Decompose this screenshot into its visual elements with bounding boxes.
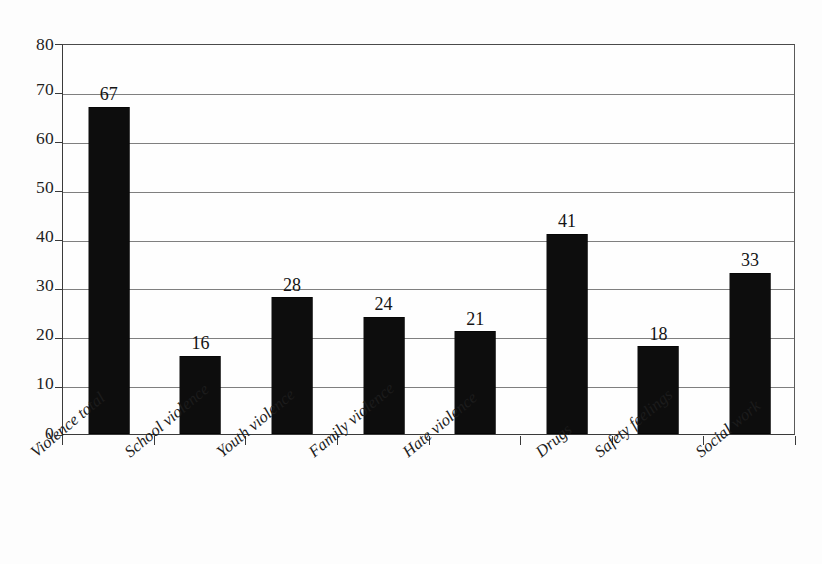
bar-slot-hate-violence: 21 [430,45,522,434]
y-tick-label-50: 50 [8,179,54,197]
y-tick-label-40: 40 [8,228,54,246]
plot-area: 67 16 28 24 21 41 18 33 [62,44,795,435]
bar-violence-total[interactable] [88,107,129,434]
bar-slot-violence-total: 67 [63,45,155,434]
y-tick-label-20: 20 [8,326,54,344]
bar-slot-drugs: 41 [521,45,613,434]
bar-chart: 80 70 60 50 40 30 20 10 0 67 16 [0,0,822,564]
bar-slot-youth-violence: 28 [246,45,338,434]
bar-value-violence-total: 67 [100,85,118,103]
bar-slot-safety-feelings: 18 [613,45,705,434]
y-tick-label-80: 80 [8,36,54,54]
bar-value-school-violence: 16 [191,334,209,352]
y-tick-label-60: 60 [8,130,54,148]
bar-value-social-work: 33 [741,251,759,269]
bar-value-youth-violence: 28 [283,276,301,294]
y-tick-label-30: 30 [8,277,54,295]
bar-value-hate-violence: 21 [466,310,484,328]
bar-value-safety-feelings: 18 [649,325,667,343]
bar-value-drugs: 41 [558,212,576,230]
x-axis-labels: Violence total School violence Youth vio… [0,436,822,564]
y-tick-label-10: 10 [8,375,54,393]
y-tick-label-70: 70 [8,81,54,99]
bar-slot-school-violence: 16 [155,45,247,434]
bar-slot-family-violence: 24 [338,45,430,434]
bar-value-family-violence: 24 [375,295,393,313]
bar-slot-social-work: 33 [704,45,796,434]
bar-drugs[interactable] [546,234,587,434]
